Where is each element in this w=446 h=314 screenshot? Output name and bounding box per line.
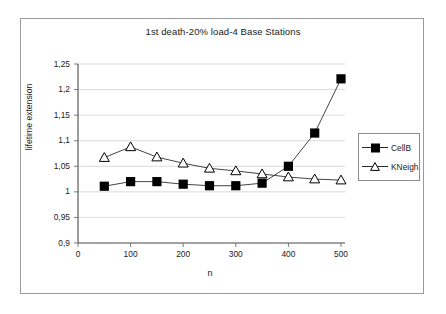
legend-label-cellb: CellB xyxy=(391,143,411,153)
legend-marker-square-icon xyxy=(362,141,388,155)
legend-item-0: CellB xyxy=(362,139,411,157)
legend-marker-triangle-icon xyxy=(362,160,388,174)
chart-legend: CellB KNeigh xyxy=(358,133,420,181)
chart-container: 1st death-20% load-4 Base Stations lifet… xyxy=(0,0,446,314)
legend-label-kneigh: KNeigh xyxy=(391,162,418,172)
legend-item-1: KNeigh xyxy=(362,158,418,176)
